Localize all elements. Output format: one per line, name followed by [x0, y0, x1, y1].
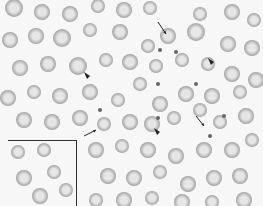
blood-smear-image — [0, 0, 263, 206]
arrowhead-icon — [208, 58, 214, 65]
annotation-arrows — [0, 0, 263, 206]
arrowhead-icon — [154, 128, 160, 135]
arrowhead-icon — [84, 72, 90, 79]
